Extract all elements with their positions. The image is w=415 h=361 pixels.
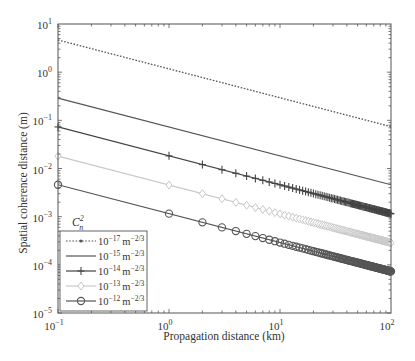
y-tick-label: 10−2: [33, 162, 52, 176]
y-tick-label: 100: [37, 65, 52, 79]
series-1: [58, 40, 391, 127]
y-tick-label: 10−4: [33, 258, 52, 272]
y-tick-label: 10−1: [33, 113, 52, 127]
chart-container: 10−110010110210110010−110−210−310−410−5 …: [0, 0, 415, 361]
x-tick-label: 10−1: [44, 318, 63, 332]
x-tick-label: 102: [380, 318, 395, 332]
y-tick-label: 101: [37, 17, 52, 31]
series-3: [55, 123, 395, 218]
legend-title: C2n: [72, 214, 84, 232]
legend: C2n10−17m−2/310−15m−2/310−14m−2/310−13m−…: [60, 214, 147, 311]
log-log-plot: 10−110010110210110010−110−210−310−410−5 …: [0, 0, 415, 361]
series-2: [58, 98, 391, 185]
y-tick-label: 10−5: [33, 306, 52, 320]
y-axis-label: Spatial coherence distance (m): [17, 112, 30, 254]
x-axis-label: Propagation distance (km): [163, 330, 285, 343]
y-tick-label: 10−3: [33, 210, 52, 224]
